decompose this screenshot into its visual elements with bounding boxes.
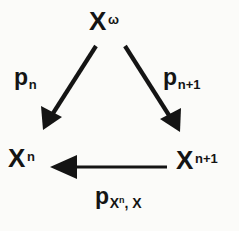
node-bottom-left-superscript: n	[27, 149, 35, 164]
node-label-bottom-right: Xn+1	[176, 147, 218, 173]
node-bottom-right-superscript: n+1	[195, 151, 218, 166]
edge-label-top-to-bottom-right: pn+1	[163, 66, 201, 89]
edge-label-bottom-base: p	[95, 183, 109, 209]
arrowhead-horizontal	[50, 155, 77, 179]
arrowhead-right-diagonal	[160, 108, 181, 132]
edge-label-right-subscript: n+1	[178, 77, 201, 92]
node-top-base: X	[89, 6, 106, 36]
arrow-top-to-bottom-left	[41, 46, 96, 130]
node-label-top: Xω	[89, 8, 119, 34]
edge-label-left-subscript: n	[29, 77, 37, 92]
edge-label-left-base: p	[14, 64, 28, 90]
edge-label-top-to-bottom-left: pn	[14, 66, 37, 89]
node-top-superscript: ω	[108, 12, 119, 27]
arrowhead-left-diagonal	[41, 106, 62, 130]
node-bottom-left-base: X	[8, 143, 25, 173]
edge-label-right-base: p	[163, 64, 177, 90]
commutative-diagram-figure: Xω Xn Xn+1 pn pn+1 pXn, X	[0, 0, 239, 231]
edge-label-bottom-subscript-tail: , X	[125, 195, 142, 211]
node-label-bottom-left: Xn	[8, 145, 35, 171]
arrow-shaft-left-diagonal	[50, 46, 96, 118]
edge-label-bottom-subscript: Xn, X	[110, 196, 142, 211]
edge-label-bottom-subscript-base: X	[110, 195, 119, 211]
node-bottom-right-base: X	[176, 145, 193, 175]
edge-label-bottom-right-to-bottom-left: pXn, X	[95, 185, 142, 208]
arrow-bottom-right-to-bottom-left	[50, 155, 167, 179]
